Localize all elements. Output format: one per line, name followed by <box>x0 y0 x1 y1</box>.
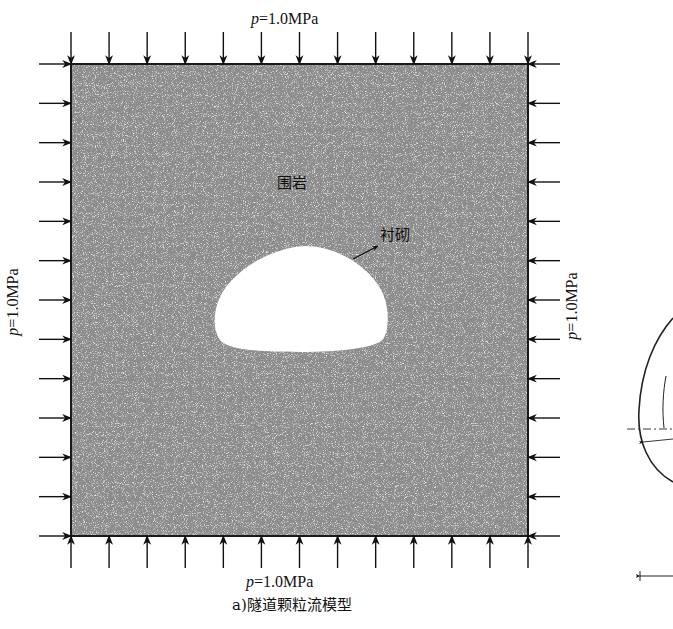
right-pressure-label: p=1.0MPa <box>564 261 580 351</box>
left-load-arrows <box>39 64 71 536</box>
surrounding-rock-label: 围岩 <box>277 176 307 191</box>
figure-caption: a)隧道颗粒流模型 <box>232 598 352 613</box>
left-pressure-label: p=1.0MPa <box>5 257 21 347</box>
top-pressure-label: p=1.0MPa <box>251 11 318 27</box>
bottom-load-arrows <box>71 536 528 568</box>
adjacent-figure-fragment <box>627 318 673 581</box>
top-load-arrows <box>71 32 528 64</box>
bottom-pressure-label: p=1.0MPa <box>246 574 313 590</box>
right-load-arrows <box>528 64 560 536</box>
lining-label: 衬砌 <box>380 228 410 243</box>
